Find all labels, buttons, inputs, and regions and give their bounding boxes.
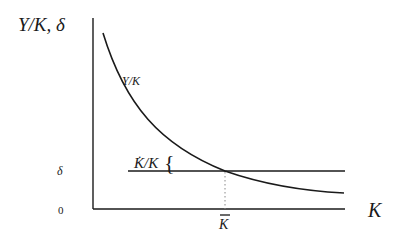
x-axis-label: K	[368, 200, 381, 220]
zero-tick-label: 0	[58, 205, 64, 216]
y-axis-label: Y/K, δ	[18, 15, 65, 34]
brace-icon: {	[164, 150, 175, 175]
growth-rate-text: K̇/K	[134, 155, 158, 171]
curve-label: Y/K	[122, 75, 140, 87]
kbar-tick-label: K	[219, 218, 228, 232]
growth-rate-label: K̇/K {	[134, 150, 175, 172]
delta-tick-label: δ	[57, 165, 63, 177]
